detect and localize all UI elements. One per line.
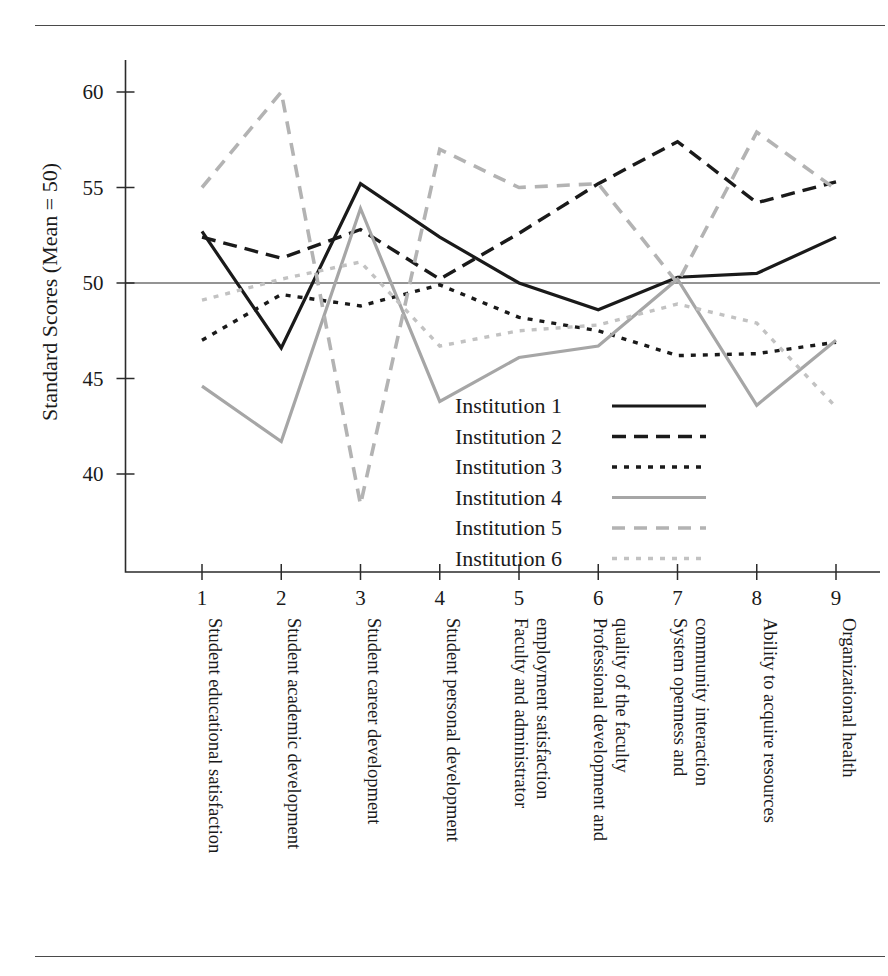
legend-label-institution-6[interactable]: Institution 6 (455, 546, 562, 571)
legend-label-institution-5[interactable]: Institution 5 (455, 515, 562, 540)
x-axis-tick-label: 4 (435, 586, 446, 610)
x-axis-category-label: employment satisfaction (533, 618, 553, 799)
x-axis-tick-label: 7 (672, 586, 683, 610)
x-axis-tick-label: 5 (514, 586, 525, 610)
legend-label-institution-1[interactable]: Institution 1 (455, 393, 562, 418)
x-axis-category-label: Faculty and administrator (511, 618, 531, 808)
x-axis-category-label: community interaction (692, 618, 712, 786)
x-axis-category-label: Student educational satisfaction (205, 618, 225, 853)
legend-label-institution-3[interactable]: Institution 3 (455, 454, 562, 479)
x-axis-category-label: Organizational health (839, 618, 859, 777)
y-axis-ticks-group: 4045505560 (83, 80, 135, 486)
x-axis-category-label: Professional development and (590, 618, 610, 842)
chart-legend: Institution 1Institution 2Institution 3I… (455, 393, 706, 571)
x-axis-tick-label: 9 (831, 586, 842, 610)
x-axis-ticks-group: 123456789 (197, 564, 842, 610)
series-line-institution-1 (202, 184, 836, 348)
x-axis-category-label: Ability to acquire resources (760, 618, 780, 823)
series-line-institution-3 (202, 285, 836, 356)
x-axis-category-label: Student personal development (443, 618, 463, 843)
x-axis-tick-label: 6 (593, 586, 604, 610)
figure-container: 4045505560 123456789 Standard Scores (Me… (0, 0, 888, 976)
x-axis-category-label: Student academic development (284, 618, 304, 850)
x-axis-category-label: System openness and (670, 618, 690, 777)
x-axis-category-label: Student career development (364, 618, 384, 825)
y-axis-tick-label: 50 (83, 271, 104, 295)
x-axis-tick-label: 2 (276, 586, 287, 610)
series-line-institution-2 (202, 142, 836, 280)
y-axis-tick-label: 45 (83, 367, 104, 391)
legend-label-institution-2[interactable]: Institution 2 (455, 424, 562, 449)
x-axis-tick-label: 3 (355, 586, 366, 610)
y-axis-label-group: Standard Scores (Mean = 50) (37, 163, 62, 421)
x-axis-category-label: quality of the faculty (612, 618, 632, 773)
y-axis-title: Standard Scores (Mean = 50) (37, 163, 62, 421)
legend-label-institution-4[interactable]: Institution 4 (455, 485, 562, 510)
line-chart-plot: 4045505560 123456789 Standard Scores (Me… (0, 0, 888, 976)
y-axis-tick-label: 55 (83, 176, 104, 200)
y-axis-tick-label: 40 (83, 462, 104, 486)
x-axis-tick-label: 1 (197, 586, 208, 610)
y-axis-tick-label: 60 (83, 80, 104, 104)
category-labels-group: Student educational satisfactionStudent … (205, 618, 859, 853)
x-axis-tick-label: 8 (752, 586, 763, 610)
